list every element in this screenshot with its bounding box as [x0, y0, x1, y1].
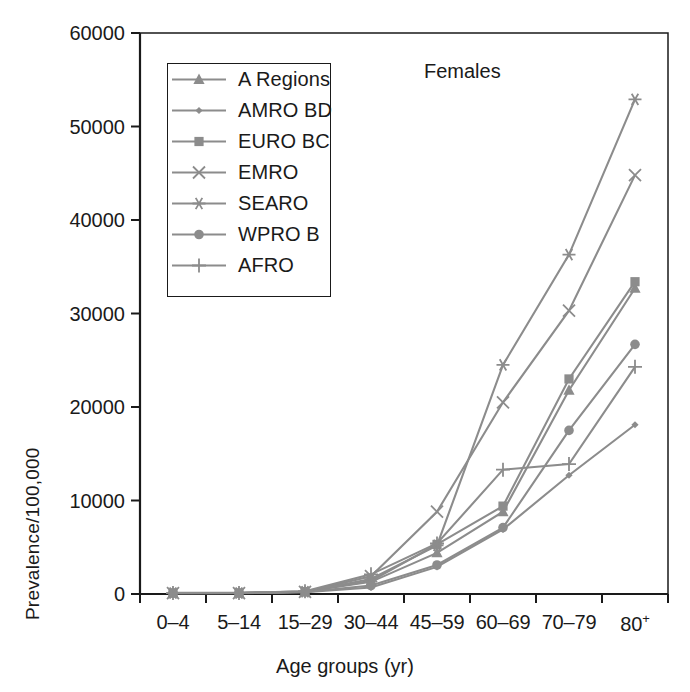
legend-label: EMRO: [230, 161, 298, 184]
legend-label: AMRO BD: [230, 99, 332, 122]
legend-item-emro: EMRO: [168, 157, 330, 188]
x-tick-label: 60–69: [476, 611, 531, 634]
x-tick-label: 70–79: [542, 611, 597, 634]
series-line-a-regions: [173, 288, 635, 593]
y-tick-label: 40000: [25, 209, 125, 232]
legend-item-searo: SEARO: [168, 188, 330, 219]
legend-item-euro-bc: EURO BC: [168, 126, 330, 157]
series-line-euro-bc: [173, 282, 635, 593]
legend-item-afro: AFRO: [168, 250, 330, 281]
x-tick-label: 45–59: [410, 611, 465, 634]
x-tick-label: 30–44: [344, 611, 399, 634]
legend-marker-small-diamond-icon: [168, 95, 230, 126]
legend-item-a-regions: A Regions: [168, 64, 330, 95]
legend-marker-circle-icon: [168, 219, 230, 250]
x-tick-label: 15–29: [278, 611, 333, 634]
legend-item-wpro-b: WPRO B: [168, 219, 330, 250]
y-tick-label: 10000: [25, 489, 125, 512]
legend-marker-square-icon: [168, 126, 230, 157]
x-tick-label: 80+: [620, 611, 649, 636]
legend-marker-triangle-icon: [168, 64, 230, 95]
legend-item-amro-bd: AMRO BD: [168, 95, 330, 126]
panel-title: Females: [424, 60, 501, 83]
legend-marker-asterisk-icon: [168, 188, 230, 219]
legend-label: SEARO: [230, 192, 309, 215]
y-tick-label: 60000: [25, 22, 125, 45]
legend-label: A Regions: [230, 68, 330, 91]
legend-label: EURO BC: [230, 130, 330, 153]
legend-marker-plus-icon: [168, 250, 230, 281]
legend-marker-cross-x-icon: [168, 157, 230, 188]
x-tick-label: 5–14: [217, 611, 261, 634]
series-line-afro: [173, 367, 635, 593]
legend-label: WPRO B: [230, 223, 320, 246]
legend-label: AFRO: [230, 254, 294, 277]
chart-figure: Prevalence/100,000 010000200003000040000…: [0, 0, 690, 692]
legend: A RegionsAMRO BDEURO BCEMROSEAROWPRO BAF…: [167, 63, 331, 297]
x-tick-label: 0–4: [157, 611, 190, 634]
y-tick-label: 0: [25, 583, 125, 606]
y-tick-label: 50000: [25, 115, 125, 138]
x-axis-title: Age groups (yr): [0, 655, 690, 678]
y-tick-label: 20000: [25, 396, 125, 419]
y-tick-label: 30000: [25, 302, 125, 325]
